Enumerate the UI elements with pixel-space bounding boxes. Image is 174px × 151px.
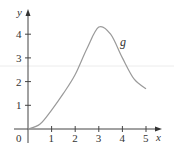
x-tick-label: 1: [49, 132, 55, 144]
x-tick-label: 3: [96, 132, 102, 144]
origin-label: 0: [16, 132, 22, 144]
curve-g: [28, 26, 146, 129]
y-tick-label: 2: [16, 76, 22, 88]
x-tick-label: 5: [143, 132, 149, 144]
y-ticks: 1234: [16, 28, 31, 111]
y-axis-arrow-icon: [26, 9, 31, 16]
x-axis-label: x: [155, 131, 161, 143]
y-tick-label: 4: [16, 28, 22, 40]
axes: [14, 9, 162, 143]
function-graph: 12345 1234 x y 0 g: [0, 0, 174, 151]
y-tick-label: 3: [16, 52, 22, 64]
y-axis-label: y: [16, 6, 22, 18]
x-tick-label: 4: [119, 132, 125, 144]
x-tick-label: 2: [72, 132, 78, 144]
curve-label-g: g: [120, 35, 126, 49]
y-tick-label: 1: [16, 99, 22, 111]
